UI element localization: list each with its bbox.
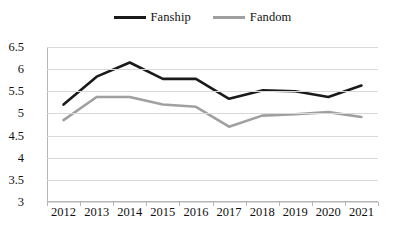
- chart-legend: Fanship Fandom: [0, 6, 405, 28]
- gridline: [47, 158, 378, 159]
- x-tick: [213, 202, 214, 206]
- gridline: [47, 113, 378, 114]
- y-tick-label: 6.5: [0, 41, 24, 53]
- x-tick: [246, 202, 247, 206]
- gridline: [47, 47, 378, 48]
- x-tick: [179, 202, 180, 206]
- gridline: [47, 180, 378, 181]
- series-line-fandom: [64, 97, 362, 127]
- x-tick: [113, 202, 114, 206]
- series-lines: [47, 47, 378, 202]
- gridline: [47, 69, 378, 70]
- line-chart: Fanship Fandom 33.544.555.566.5 20122013…: [0, 0, 405, 236]
- x-tick: [146, 202, 147, 206]
- x-tick-label: 2021: [341, 206, 381, 219]
- y-tick-label: 3: [0, 196, 24, 208]
- x-tick: [378, 202, 379, 206]
- legend-label-fanship: Fanship: [151, 11, 191, 24]
- y-tick-label: 5: [0, 107, 24, 119]
- y-tick-label: 3.5: [0, 174, 24, 186]
- legend-item-fanship: Fanship: [114, 11, 191, 24]
- y-tick-label: 6: [0, 63, 24, 75]
- gridline: [47, 136, 378, 137]
- plot-area: [47, 47, 378, 202]
- x-tick: [80, 202, 81, 206]
- legend-swatch-fandom: [213, 16, 245, 19]
- y-tick-label: 4: [0, 152, 24, 164]
- x-tick: [279, 202, 280, 206]
- x-tick: [312, 202, 313, 206]
- y-tick-label: 5.5: [0, 85, 24, 97]
- y-tick-label: 4.5: [0, 130, 24, 142]
- x-tick: [345, 202, 346, 206]
- gridline: [47, 91, 378, 92]
- x-tick: [47, 202, 48, 206]
- legend-item-fandom: Fandom: [213, 11, 292, 24]
- legend-swatch-fanship: [114, 16, 146, 19]
- legend-label-fandom: Fandom: [250, 11, 292, 24]
